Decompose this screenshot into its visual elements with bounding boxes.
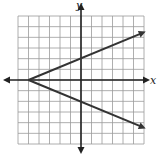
x-axis-right-arrow-icon [143, 77, 150, 84]
coordinate-plane: x y [0, 0, 161, 156]
ray-line-1 [29, 33, 143, 80]
ray-line-2 [29, 80, 143, 127]
x-axis-label: x [150, 74, 157, 87]
y-axis-down-arrow-icon [78, 147, 85, 154]
y-axis-label: y [75, 0, 83, 12]
x-axis-left-arrow-icon [3, 77, 10, 84]
axes [3, 3, 150, 154]
